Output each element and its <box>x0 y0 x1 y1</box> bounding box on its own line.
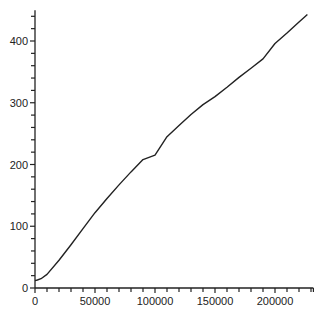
x-tick-label: 50000 <box>80 295 111 307</box>
x-tick-label: 0 <box>32 295 38 307</box>
plot-area <box>35 14 307 280</box>
line-chart: 0100200300400 050000100000150000200000 <box>0 0 320 319</box>
y-tick-label: 300 <box>10 97 28 109</box>
x-tick-label: 150000 <box>197 295 234 307</box>
y-tick-label: 200 <box>10 159 28 171</box>
y-tick-label: 400 <box>10 35 28 47</box>
x-axis: 050000100000150000200000 <box>32 288 313 307</box>
y-tick-label: 100 <box>10 220 28 232</box>
y-axis: 0100200300400 <box>10 10 35 294</box>
x-tick-label: 100000 <box>137 295 174 307</box>
x-tick-label: 200000 <box>257 295 294 307</box>
y-tick-label: 0 <box>22 282 28 294</box>
data-line <box>35 14 307 280</box>
